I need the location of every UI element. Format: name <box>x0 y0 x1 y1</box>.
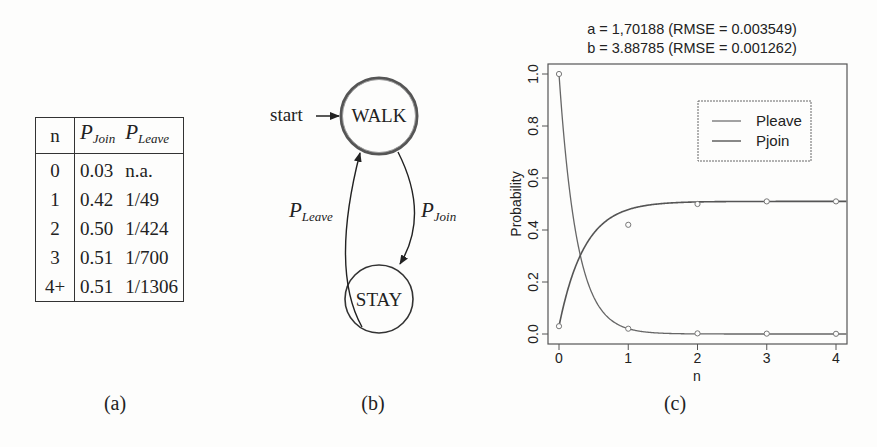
x-tick-label: 3 <box>763 350 771 366</box>
y-tick-label: 0.8 <box>525 116 541 135</box>
pjoin-curve <box>559 201 846 326</box>
data-point-marker <box>764 199 769 204</box>
x-axis-label: n <box>693 368 701 384</box>
x-tick-label: 2 <box>694 350 702 366</box>
legend-label-pleave: Pleave <box>756 112 802 129</box>
y-axis-label: Probability <box>508 171 524 236</box>
data-point-marker <box>695 331 700 336</box>
data-point-marker <box>833 331 838 336</box>
y-tick-label: 0.0 <box>525 324 541 343</box>
y-tick-label: 0.4 <box>525 220 541 239</box>
data-point-marker <box>833 199 838 204</box>
y-axis <box>542 74 548 334</box>
data-point-marker <box>556 324 561 329</box>
y-tick-label: 1.0 <box>525 64 541 83</box>
data-point-marker <box>764 331 769 336</box>
data-point-marker <box>556 71 561 76</box>
y-tick-label: 0.2 <box>525 272 541 291</box>
legend <box>698 101 811 161</box>
legend-label-pjoin: Pjoin <box>756 132 789 149</box>
data-point-marker <box>626 222 631 227</box>
x-tick-label: 0 <box>555 350 563 366</box>
x-tick-label: 4 <box>832 350 840 366</box>
data-point-marker <box>695 201 700 206</box>
probability-plot <box>0 0 877 447</box>
x-tick-label: 1 <box>624 350 632 366</box>
data-point-marker <box>626 326 631 331</box>
y-tick-label: 0.6 <box>525 168 541 187</box>
caption-c: (c) <box>664 392 686 415</box>
